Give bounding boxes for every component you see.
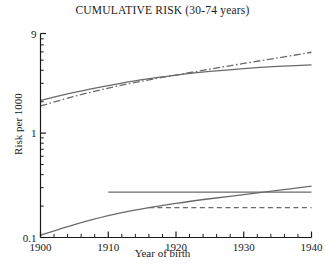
x-tick-label: 1940 bbox=[301, 241, 324, 253]
y-tick-label: 1 bbox=[31, 127, 37, 139]
axes-layer bbox=[41, 34, 312, 238]
y-tick-label: 9 bbox=[31, 28, 37, 40]
tick-label-layer: 0.11919001910192019301940 bbox=[23, 28, 323, 253]
plot-area: 0.11919001910192019301940 bbox=[0, 0, 325, 265]
series-line-upper-dashdot bbox=[41, 52, 312, 106]
x-tick-label: 1930 bbox=[233, 241, 256, 253]
x-tick-label: 1900 bbox=[30, 241, 53, 253]
x-tick-label: 1920 bbox=[165, 241, 188, 253]
series-line-lower-rising-solid bbox=[41, 186, 312, 235]
cumulative-risk-chart-figure: CUMULATIVE RISK (30-74 years) Risk per 1… bbox=[0, 0, 325, 265]
x-tick-label: 1910 bbox=[97, 241, 120, 253]
series-layer bbox=[41, 52, 312, 235]
